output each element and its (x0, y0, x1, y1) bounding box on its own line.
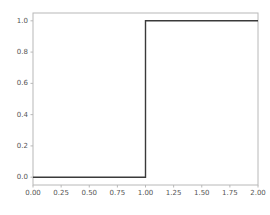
x-tick-label: 0.50 (81, 190, 97, 197)
x-tick-label: 0.25 (53, 190, 69, 197)
x-tick-label: 0.00 (25, 190, 41, 197)
x-tick-label: 2.00 (250, 190, 266, 197)
y-tick-label: 1.0 (0, 17, 28, 24)
y-tick-label: 0.6 (0, 80, 28, 87)
y-tick-label: 0.8 (0, 49, 28, 56)
x-tick-label: 1.00 (138, 190, 154, 197)
y-tick-label: 0.4 (0, 111, 28, 118)
x-tick-label: 1.50 (194, 190, 210, 197)
x-tick-label: 1.25 (166, 190, 182, 197)
y-tick-label: 0.0 (0, 174, 28, 181)
y-tick-label: 0.2 (0, 142, 28, 149)
x-tick-label: 1.75 (222, 190, 238, 197)
figure: 0.000.250.500.751.001.251.501.752.00 0.0… (0, 0, 270, 215)
x-tick-label: 0.75 (110, 190, 126, 197)
plot-canvas (0, 0, 270, 215)
